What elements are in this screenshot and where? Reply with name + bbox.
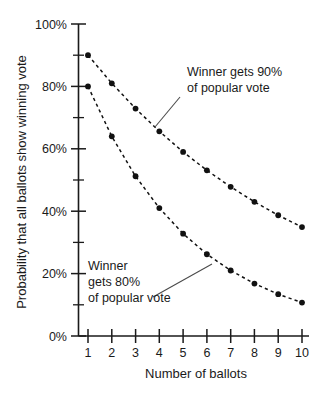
y-axis-title: Probability that all ballots show winnin… xyxy=(14,55,29,309)
x-tick-label-2: 2 xyxy=(108,346,115,360)
data-point xyxy=(156,128,162,134)
x-tick-label-10: 10 xyxy=(295,346,309,360)
leader-line-upper xyxy=(155,97,180,127)
data-point xyxy=(228,184,234,190)
y-tick-label-20: 20% xyxy=(42,267,67,281)
x-tick-label-4: 4 xyxy=(156,346,163,360)
annotation-lower-line-1: Winner xyxy=(88,259,128,273)
data-point xyxy=(204,167,210,173)
probability-line-chart: 100% 80% 60% 40% 20% 0% 1 2 3 4 5 6 7 8 … xyxy=(0,0,322,393)
annotation-lower-line-2: gets 80% xyxy=(88,275,140,289)
data-point xyxy=(275,212,281,218)
y-tick-label-40: 40% xyxy=(42,205,67,219)
y-tick-label-80: 80% xyxy=(42,80,67,94)
data-point xyxy=(275,291,281,297)
data-point xyxy=(299,300,305,306)
annotation-lower-line-3: of popular vote xyxy=(88,291,171,305)
y-tick-label-0: 0% xyxy=(49,330,67,344)
x-axis-title: Number of ballots xyxy=(145,366,247,381)
data-point xyxy=(109,80,115,86)
data-point xyxy=(252,281,258,287)
x-tick-label-8: 8 xyxy=(251,346,258,360)
data-point xyxy=(156,205,162,211)
data-point xyxy=(109,133,115,139)
x-tick-label-3: 3 xyxy=(132,346,139,360)
chart-figure: 100% 80% 60% 40% 20% 0% 1 2 3 4 5 6 7 8 … xyxy=(0,0,322,393)
y-tick-label-60: 60% xyxy=(42,142,67,156)
data-point xyxy=(299,224,305,230)
data-point xyxy=(204,251,210,257)
y-tick-label-100: 100% xyxy=(35,18,67,32)
data-point xyxy=(180,231,186,237)
x-tick-label-1: 1 xyxy=(85,346,92,360)
x-tick-label-6: 6 xyxy=(203,346,210,360)
data-point xyxy=(85,84,91,90)
data-point xyxy=(180,149,186,155)
data-point xyxy=(133,106,139,112)
data-point xyxy=(133,173,139,179)
data-point xyxy=(252,199,258,205)
data-point xyxy=(228,268,234,274)
annotation-upper-line-2: of popular vote xyxy=(187,81,270,95)
annotation-upper-line-1: Winner gets 90% xyxy=(187,65,282,79)
x-tick-label-5: 5 xyxy=(180,346,187,360)
data-point xyxy=(85,52,91,58)
x-tick-label-9: 9 xyxy=(275,346,282,360)
x-tick-label-7: 7 xyxy=(227,346,234,360)
